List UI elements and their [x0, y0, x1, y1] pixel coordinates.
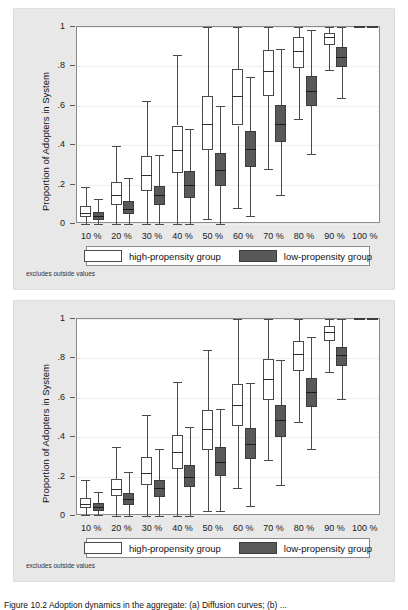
legend-item: high-propensity group: [84, 250, 221, 262]
median-line: [172, 452, 183, 453]
whisker-cap-upper: [173, 382, 182, 383]
whisker-lower: [220, 476, 221, 511]
whisker-cap-lower: [203, 219, 212, 220]
whisker-upper: [159, 449, 160, 480]
whisker-lower: [159, 205, 160, 224]
whisker-cap-upper: [325, 27, 334, 28]
whisker-cap-upper: [173, 55, 182, 56]
median-line: [215, 170, 226, 171]
whisker-cap-upper: [81, 480, 90, 481]
median-line: [93, 216, 104, 217]
box-flat-line: [367, 318, 378, 320]
y-tick-mark: [70, 397, 75, 398]
figure-panel-bottom: 0.2.4.6.81Proportion of Adopters in Syst…: [13, 300, 395, 582]
whisker-cap-lower: [294, 119, 303, 120]
whisker-cap-upper: [142, 101, 151, 102]
median-line: [275, 124, 286, 125]
median-line: [245, 149, 256, 150]
whisker-cap-lower: [276, 195, 285, 196]
whisker-cap-upper: [307, 30, 316, 31]
whisker-cap-upper: [276, 360, 285, 361]
median-line: [202, 124, 213, 125]
whisker-lower: [116, 496, 117, 516]
whisker-cap-lower: [142, 224, 151, 225]
x-tick-label: 40 %: [172, 231, 193, 241]
whisker-lower: [299, 68, 300, 118]
legend-swatch-high-propensity: [84, 250, 122, 262]
box-flat-line: [354, 318, 365, 320]
whisker-upper: [268, 319, 269, 359]
y-tick-mark: [70, 357, 75, 358]
y-gridline: [77, 319, 379, 320]
box-high-propensity: [324, 33, 335, 45]
whisker-lower: [311, 106, 312, 154]
whisker-upper: [220, 409, 221, 447]
box-high-propensity: [80, 206, 91, 217]
x-tick-label: 100 %: [352, 231, 378, 241]
whisker-upper: [116, 447, 117, 479]
whisker-upper: [342, 27, 343, 47]
whisker-cap-lower: [155, 224, 164, 225]
median-line: [154, 195, 165, 196]
x-tick-label: 30 %: [142, 523, 163, 533]
whisker-cap-lower: [216, 511, 225, 512]
whisker-lower: [329, 45, 330, 71]
box-flat-line: [354, 26, 365, 28]
legend-swatch-high-propensity: [84, 542, 122, 554]
y-tick-mark: [70, 515, 75, 516]
whisker-upper: [86, 480, 87, 499]
x-tick-label: 50 %: [203, 523, 224, 533]
whisker-cap-lower: [124, 224, 133, 225]
whisker-lower: [238, 126, 239, 209]
box-high-propensity: [141, 457, 152, 486]
median-line: [232, 405, 243, 406]
y-tick-label: .2: [57, 179, 65, 189]
whisker-upper: [159, 155, 160, 186]
box-high-propensity: [293, 341, 304, 372]
whisker-cap-upper: [264, 319, 273, 320]
median-line: [172, 150, 183, 151]
whisker-cap-lower: [246, 216, 255, 217]
whisker-cap-lower: [173, 224, 182, 225]
median-line: [184, 185, 195, 186]
median-line: [336, 57, 347, 58]
figure-panel-top: 0.2.4.6.81Proportion of Adopters in Syst…: [13, 8, 395, 290]
whisker-cap-lower: [173, 516, 182, 517]
whisker-upper: [342, 319, 343, 347]
y-tick-label: .8: [57, 352, 65, 362]
whisker-lower: [250, 167, 251, 216]
median-line: [293, 51, 304, 52]
whisker-cap-upper: [233, 27, 242, 28]
median-line: [215, 462, 226, 463]
whisker-cap-lower: [81, 515, 90, 516]
y-tick-label: .4: [57, 431, 65, 441]
legend-label: low-propensity group: [284, 251, 372, 262]
whisker-cap-lower: [112, 224, 121, 225]
whisker-cap-lower: [337, 399, 346, 400]
x-tick-label: 60 %: [233, 523, 254, 533]
y-axis-label: Proportion of Adopters in System: [40, 72, 51, 211]
whisker-cap-upper: [155, 449, 164, 450]
legend-label: high-propensity group: [129, 543, 221, 554]
x-tick-label: 70 %: [263, 523, 284, 533]
whisker-cap-upper: [185, 129, 194, 130]
y-tick-label: 1: [60, 21, 65, 31]
x-tick-label: 30 %: [142, 231, 163, 241]
whisker-cap-upper: [246, 383, 255, 384]
whisker-cap-upper: [337, 319, 346, 320]
plot-region: [76, 26, 380, 223]
median-line: [202, 429, 213, 430]
whisker-lower: [129, 505, 130, 516]
whisker-cap-upper: [294, 319, 303, 320]
y-tick-mark: [70, 476, 75, 477]
median-line: [232, 96, 243, 97]
whisker-upper: [147, 101, 148, 156]
excludes-outside-values-note: excludes outside values: [26, 270, 95, 277]
chart-legend: high-propensity grouplow-propensity grou…: [86, 246, 370, 266]
legend-item: low-propensity group: [239, 250, 372, 262]
median-line: [111, 489, 122, 490]
y-tick-mark: [70, 184, 75, 185]
median-line: [306, 392, 317, 393]
whisker-cap-upper: [276, 49, 285, 50]
x-tick-label: 80 %: [294, 523, 315, 533]
